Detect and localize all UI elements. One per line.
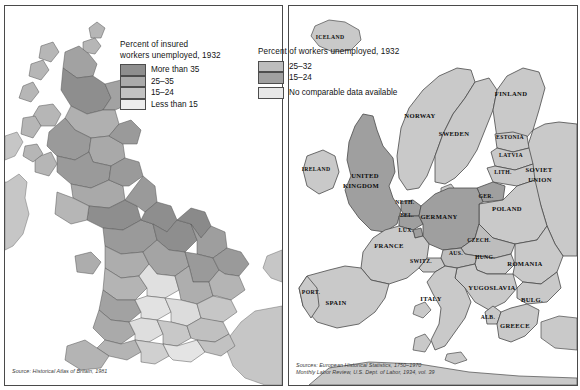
legend-entry-15-24: 15–24 bbox=[120, 87, 221, 99]
legend-label: 25–35 bbox=[151, 77, 174, 86]
legend-title: Percent of workers unemployed, 1932 bbox=[258, 47, 399, 58]
country-label-ireland: IRELAND bbox=[302, 166, 331, 172]
country-ireland bbox=[303, 150, 339, 194]
country-label-uk2: KINGDOM bbox=[343, 182, 380, 189]
legend-entry-25-32: 25–32 bbox=[258, 61, 399, 73]
country-label-lithuania: LITH. bbox=[494, 169, 512, 175]
legend-label: Less than 15 bbox=[151, 100, 198, 109]
country-label-portugal: PORT. bbox=[302, 289, 321, 295]
country-label-italy: ITALY bbox=[420, 295, 442, 302]
country-label-belgium: BEL. bbox=[400, 212, 414, 218]
country-label-sweden: SWEDEN bbox=[439, 130, 470, 137]
legend-entry-no-data: No comparable data available bbox=[258, 87, 399, 99]
figure-root: Percent of insured workers unemployed, 1… bbox=[0, 0, 580, 390]
left-map-legend: Percent of insured workers unemployed, 1… bbox=[120, 40, 221, 110]
legend-label: 15–24 bbox=[289, 73, 312, 82]
country-label-soviet2: UNION bbox=[528, 176, 552, 183]
country-label-poland: POLAND bbox=[492, 205, 522, 212]
legend-title: Percent of insured workers unemployed, 1… bbox=[120, 40, 221, 61]
legend-entry-15-24: 15–24 bbox=[258, 72, 399, 84]
country-label-france: FRANCE bbox=[374, 242, 404, 249]
country-label-czech: CZECH. bbox=[467, 237, 491, 243]
country-label-hungary: HUNG. bbox=[475, 254, 495, 260]
legend-swatch bbox=[258, 72, 284, 84]
legend-label: 25–32 bbox=[289, 62, 312, 71]
left-map-source: Source: Historical Atlas of Britain, 198… bbox=[12, 368, 107, 375]
country-label-finland: FINLAND bbox=[495, 90, 528, 97]
legend-entry-more-than-35: More than 35 bbox=[120, 64, 221, 76]
country-label-uk: UNITED bbox=[351, 172, 379, 179]
country-label-yugoslavia: YUGOSLAVIA bbox=[468, 284, 515, 291]
legend-label: 15–24 bbox=[151, 88, 174, 97]
legend-swatch bbox=[120, 87, 146, 99]
country-label-lux: LUX. bbox=[399, 227, 414, 233]
country-label-estonia: ESTONIA bbox=[496, 134, 524, 140]
country-label-bulgaria: BULG. bbox=[521, 296, 543, 303]
legend-swatch bbox=[120, 76, 146, 88]
country-label-germany_e: GER. bbox=[478, 193, 493, 199]
country-label-switz: SWITZ. bbox=[410, 258, 432, 264]
country-label-latvia: LATVIA bbox=[499, 152, 523, 158]
legend-label: More than 35 bbox=[151, 65, 199, 74]
legend-entry-less-than-15: Less than 15 bbox=[120, 99, 221, 111]
country-label-greece: GREECE bbox=[500, 322, 530, 329]
legend-swatch bbox=[258, 87, 284, 99]
legend-swatch bbox=[120, 99, 146, 111]
right-map-source: Sources: European Historical Statistics,… bbox=[296, 362, 435, 375]
legend-swatch bbox=[258, 61, 284, 73]
country-label-norway: NORWAY bbox=[404, 112, 435, 119]
country-label-netherlands: NETH. bbox=[395, 199, 415, 205]
right-map-legend: Percent of workers unemployed, 1932 25–3… bbox=[258, 47, 399, 99]
legend-swatch bbox=[120, 64, 146, 76]
country-label-albania: ALB. bbox=[481, 314, 496, 320]
country-label-romania: ROMANIA bbox=[507, 260, 542, 267]
legend-entry-25-35: 25–35 bbox=[120, 76, 221, 88]
country-label-germany: GERMANY bbox=[420, 213, 457, 220]
country-label-soviet: SOVIET bbox=[525, 166, 552, 173]
legend-label: No comparable data available bbox=[289, 88, 397, 97]
country-label-austria: AUS. bbox=[449, 250, 463, 256]
country-label-spain: SPAIN bbox=[325, 299, 346, 306]
country-label-iceland: ICELAND bbox=[316, 34, 345, 40]
